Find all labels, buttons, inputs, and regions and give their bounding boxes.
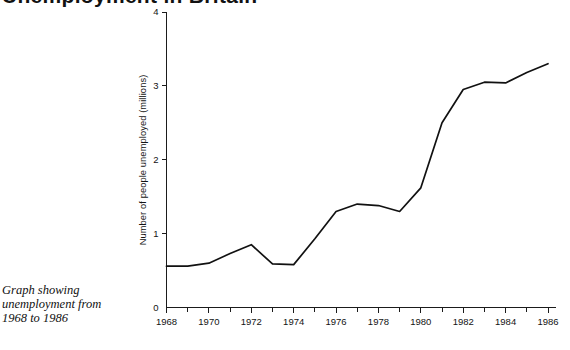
x-tick-label: 1986 <box>537 316 558 327</box>
data-series-line <box>167 64 549 266</box>
y-tick-label: 2 <box>153 154 158 165</box>
x-tick-label: 1974 <box>283 316 304 327</box>
caption-line-1: Graph showing <box>2 283 134 297</box>
y-tick-label: 0 <box>153 302 158 313</box>
x-axis-ticks <box>167 308 549 313</box>
x-tick-label: 1984 <box>495 316 516 327</box>
caption-line-2: unemployment from <box>2 297 134 311</box>
x-tick-label: 1970 <box>198 316 219 327</box>
y-tick-label: 3 <box>153 80 158 91</box>
x-tick-label: 1976 <box>325 316 346 327</box>
y-tick-label: 1 <box>153 228 158 239</box>
y-axis-ticks <box>162 12 167 234</box>
y-axis-title: Number of people unemployed (millions) <box>138 75 148 246</box>
x-tick-label: 1978 <box>368 316 389 327</box>
chart-axes <box>167 12 557 308</box>
x-tick-label: 1968 <box>156 316 177 327</box>
y-axis-tick-labels: 01234 <box>153 6 158 313</box>
x-axis-tick-labels: 1968197019721974197619781980198219841986 <box>156 316 559 327</box>
figure-caption: Graph showing unemployment from 1968 to … <box>2 283 134 326</box>
caption-line-3: 1968 to 1986 <box>2 311 134 325</box>
x-tick-label: 1980 <box>410 316 431 327</box>
x-tick-label: 1972 <box>241 316 262 327</box>
x-tick-label: 1982 <box>453 316 474 327</box>
y-tick-label: 4 <box>153 6 158 17</box>
